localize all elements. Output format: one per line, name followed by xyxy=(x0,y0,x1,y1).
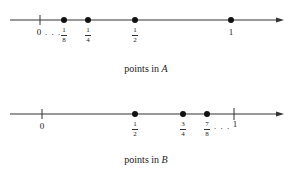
ellipsis-b: . . . xyxy=(214,121,230,131)
number-line-b xyxy=(10,108,284,120)
point-1-8 xyxy=(61,17,67,23)
number-lines-svg xyxy=(0,0,291,171)
fraction-label-1-8: 1 8 xyxy=(61,27,67,44)
fraction-label-1-2: 1 2 xyxy=(132,27,138,44)
caption-a: points in A xyxy=(124,63,167,74)
arrow-head-icon xyxy=(276,112,284,117)
label-one-b: 1 xyxy=(233,120,238,129)
point-1 xyxy=(228,17,234,23)
label-zero-a: 0 xyxy=(37,28,42,37)
point-7-8 xyxy=(204,111,210,117)
point-1-2 xyxy=(132,111,138,117)
arrow-head-icon xyxy=(276,18,284,23)
caption-b: points in B xyxy=(124,154,167,165)
label-zero-b: 0 xyxy=(40,122,45,131)
fraction-label-3-4: 3 4 xyxy=(180,121,186,138)
point-3-4 xyxy=(180,111,186,117)
point-1-4 xyxy=(85,17,91,23)
point-1-2 xyxy=(132,17,138,23)
fraction-label-7-8: 7 8 xyxy=(204,121,210,138)
label-one-a: 1 xyxy=(229,28,234,37)
ellipsis-a: . . . xyxy=(45,27,61,37)
number-line-a xyxy=(10,15,284,25)
fraction-label-1-2: 1 2 xyxy=(132,121,138,138)
fraction-label-1-4: 1 4 xyxy=(85,27,91,44)
